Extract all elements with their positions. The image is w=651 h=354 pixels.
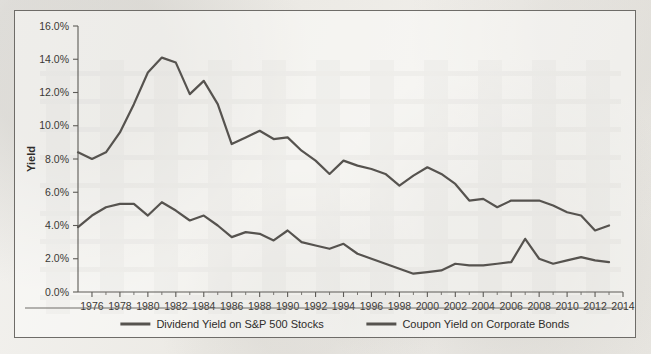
- x-axis-tick-label: 2010: [555, 300, 579, 312]
- legend-label-1: Dividend Yield on S&P 500 Stocks: [156, 318, 324, 330]
- x-axis-tick-label: 1986: [220, 300, 244, 312]
- x-axis-tick-label: 1990: [276, 300, 300, 312]
- x-axis-tick-label: 2004: [472, 300, 496, 312]
- x-axis-tick-label: 2002: [444, 300, 468, 312]
- y-axis-tick-label: 10.0%: [39, 119, 69, 131]
- y-axis-tick-label: 2.0%: [45, 252, 69, 264]
- x-axis-tick-label: 1996: [360, 300, 384, 312]
- x-axis-tick-label: 1994: [332, 300, 356, 312]
- x-axis-tick-label: 1976: [80, 300, 104, 312]
- y-axis-tick-label: 8.0%: [45, 153, 69, 165]
- x-axis-tick-label: 1982: [164, 300, 188, 312]
- series-line-2: [78, 58, 609, 231]
- y-axis-tick-label: 12.0%: [39, 86, 69, 98]
- x-axis-tick-label: 1978: [108, 300, 132, 312]
- y-axis-title: Yield: [25, 146, 37, 172]
- x-axis-tick-label: 2000: [416, 300, 440, 312]
- y-axis-title-text: Yield: [25, 146, 37, 172]
- line-chart: 0.0%2.0%4.0%6.0%8.0%10.0%12.0%14.0%16.0%…: [15, 11, 637, 339]
- series-group: [78, 58, 609, 274]
- figure-frame: 0.0%2.0%4.0%6.0%8.0%10.0%12.0%14.0%16.0%…: [14, 10, 636, 338]
- y-axis-tick-label: 14.0%: [39, 53, 69, 65]
- x-axis-tick-label: 1988: [248, 300, 272, 312]
- x-axis-tick-label: 2006: [500, 300, 524, 312]
- x-axis-tick-label: 1998: [388, 300, 412, 312]
- y-axis-tick-label: 16.0%: [39, 20, 69, 32]
- y-axis-tick-label: 4.0%: [45, 219, 69, 231]
- x-axis-tick-label: 2012: [583, 300, 607, 312]
- x-axis-tick-label: 1984: [192, 300, 216, 312]
- y-axis: 0.0%2.0%4.0%6.0%8.0%10.0%12.0%14.0%16.0%: [39, 20, 78, 298]
- x-axis: 1976197819801982198419861988199019921994…: [78, 292, 635, 312]
- legend-label-2: Coupon Yield on Corporate Bonds: [402, 318, 569, 330]
- x-axis-tick-label: 1980: [136, 300, 160, 312]
- x-axis-tick-label: 1992: [304, 300, 328, 312]
- chart-canvas: 0.0%2.0%4.0%6.0%8.0%10.0%12.0%14.0%16.0%…: [15, 11, 637, 339]
- x-axis-tick-label: 2008: [527, 300, 551, 312]
- figure-page: 0.0%2.0%4.0%6.0%8.0%10.0%12.0%14.0%16.0%…: [0, 0, 651, 354]
- y-axis-tick-label: 0.0%: [45, 286, 69, 298]
- x-axis-tick-label: 2014: [611, 300, 635, 312]
- y-axis-tick-label: 6.0%: [45, 186, 69, 198]
- series-line-1: [78, 202, 609, 273]
